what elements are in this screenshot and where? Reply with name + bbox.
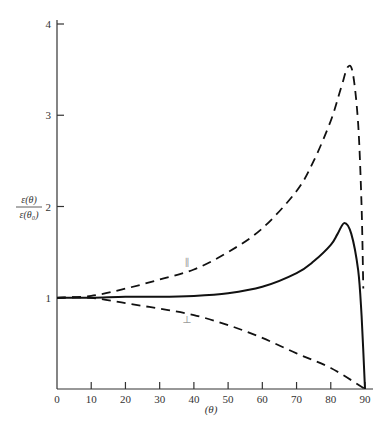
x-tick-label: 30	[154, 393, 166, 405]
labels: (θ) ε(θ) ε(θ₀) ∥⊥	[16, 194, 218, 416]
x-axis-label: (θ)	[205, 403, 218, 416]
chart: 01020304050607080901234 (θ) ε(θ) ε(θ₀) ∥…	[0, 0, 391, 436]
annotation-perpendicular: ⊥	[182, 314, 191, 325]
y-axis-label-numerator: ε(θ)	[21, 194, 37, 206]
series-line-perpendicular	[57, 297, 365, 389]
series-line-total	[57, 223, 365, 389]
x-tick-label: 70	[291, 393, 303, 405]
y-tick-label: 4	[46, 18, 52, 30]
x-tick-label: 20	[120, 393, 132, 405]
x-tick-label: 10	[86, 393, 98, 405]
series	[57, 66, 365, 389]
series-line-parallel	[57, 66, 363, 298]
y-axis-label-denominator: ε(θ₀)	[20, 209, 40, 221]
y-tick-label: 1	[46, 292, 52, 304]
x-tick-label: 50	[223, 393, 235, 405]
y-tick-label: 3	[46, 109, 52, 121]
annotation-parallel: ∥	[185, 257, 190, 268]
ticks: 01020304050607080901234	[46, 18, 372, 405]
y-tick-label: 2	[46, 201, 52, 213]
axes	[57, 20, 373, 389]
x-tick-label: 40	[188, 393, 200, 405]
x-tick-label: 60	[257, 393, 269, 405]
x-tick-label: 90	[360, 393, 372, 405]
x-tick-label: 80	[325, 393, 337, 405]
x-tick-label: 0	[54, 393, 60, 405]
